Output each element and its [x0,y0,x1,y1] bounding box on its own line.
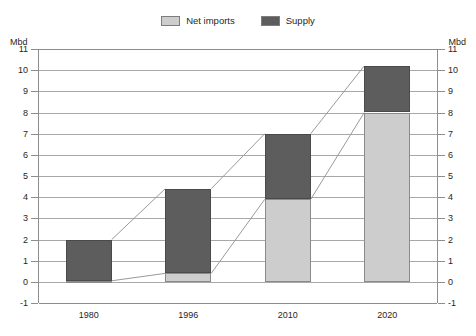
y-axis-tick-l-1 [31,261,38,262]
y-axis-label-l-7: 7 [23,129,28,138]
y-axis-tick-r-11 [438,49,445,50]
y-axis-tick-r-2 [438,240,445,241]
x-axis-label-1996: 1996 [178,311,198,320]
y-axis-label-l--1: -1 [20,299,28,308]
gridline--1 [39,303,437,304]
y-axis-tick-r--1 [438,303,445,304]
y-axis-label-r-8: 8 [448,108,453,117]
total-connector-segment-1 [211,134,265,189]
y-axis-label-l-1: 1 [23,256,28,265]
y-axis-tick-r-10 [438,70,445,71]
bar-segment-net-imports-1996 [165,273,211,281]
legend-label-net-imports: Net imports [186,16,235,26]
y-axis-label-r-1: 1 [448,256,453,265]
x-axis-label-1980: 1980 [79,311,99,320]
legend-item-net-imports: Net imports [161,16,235,26]
y-axis-tick-l-3 [31,218,38,219]
y-axis-label-r-4: 4 [448,193,453,202]
y-axis-label-r--1: -1 [448,299,456,308]
y-axis-tick-l-4 [31,197,38,198]
y-axis-label-r-6: 6 [448,150,453,159]
y-axis-label-r-9: 9 [448,87,453,96]
x-axis-label-2010: 2010 [278,311,298,320]
bar-segment-supply-2020 [364,66,410,113]
y-axis-label-l-0: 0 [23,277,28,286]
y-axis-tick-r-4 [438,197,445,198]
x-axis-label-2020: 2020 [377,311,397,320]
y-axis-tick-r-9 [438,91,445,92]
total-connector-segment-0 [112,189,166,240]
net-imports-connector-segment-2 [311,113,365,200]
bar-segment-supply-2010 [265,134,311,200]
y-axis-label-l-9: 9 [23,87,28,96]
y-axis-label-r-11: 11 [448,45,457,54]
y-axis-label-r-10: 10 [448,66,458,75]
y-axis-tick-l-0 [31,282,38,283]
y-axis-tick-r-7 [438,134,445,135]
y-axis-label-l-10: 10 [18,66,28,75]
y-axis-label-l-8: 8 [23,108,28,117]
y-axis-label-r-7: 7 [448,129,453,138]
y-axis-label-l-2: 2 [23,235,28,244]
bar-segment-supply-1996 [165,189,211,274]
y-axis-label-r-5: 5 [448,172,453,181]
y-axis-tick-l-2 [31,240,38,241]
y-axis-tick-l-8 [31,113,38,114]
stacked-bar-chart: Net imports Supply Mbd Mbd 1111101099887… [0,0,476,336]
y-axis-tick-l-11 [31,49,38,50]
y-axis-tick-l-7 [31,134,38,135]
bar-segment-net-imports-1980 [66,281,112,283]
legend-swatch-supply [261,16,280,26]
y-axis-tick-l-6 [31,155,38,156]
y-axis-tick-r-5 [438,176,445,177]
bar-segment-supply-1980 [66,240,112,281]
chart-legend: Net imports Supply [0,16,476,26]
y-axis-tick-l-9 [31,91,38,92]
y-axis-tick-r-3 [438,218,445,219]
y-axis-tick-r-6 [438,155,445,156]
y-axis-label-l-4: 4 [23,193,28,202]
y-axis-label-r-0: 0 [448,277,453,286]
total-connector-segment-2 [311,66,365,134]
y-axis-label-r-2: 2 [448,235,453,244]
y-axis-tick-r-8 [438,113,445,114]
y-axis-label-l-11: 11 [19,45,28,54]
y-axis-label-l-5: 5 [23,172,28,181]
y-axis-tick-l-10 [31,70,38,71]
bar-segment-net-imports-2010 [265,199,311,282]
bar-segment-net-imports-2020 [364,113,410,282]
y-axis-label-l-6: 6 [23,150,28,159]
y-axis-label-r-3: 3 [448,214,453,223]
legend-label-supply: Supply [286,16,315,26]
y-axis-label-l-3: 3 [23,214,28,223]
net-imports-connector-segment-0 [112,273,166,280]
net-imports-connector-segment-1 [211,199,265,273]
y-axis-tick-r-1 [438,261,445,262]
plot-area: 1111101099887766554433221100-1-119801996… [38,49,438,303]
legend-item-supply: Supply [261,16,315,26]
legend-swatch-net-imports [161,16,180,26]
y-axis-tick-l-5 [31,176,38,177]
y-axis-tick-l--1 [31,303,38,304]
y-axis-tick-r-0 [438,282,445,283]
